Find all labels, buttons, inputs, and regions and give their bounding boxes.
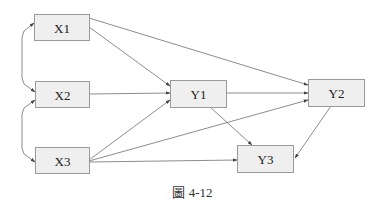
path-arrow-x3-y3 [89,160,237,162]
node-x2: X2 [36,82,90,108]
node-x1: X1 [35,15,90,41]
node-label: Y2 [329,86,345,101]
path-arrow-x1-y1 [89,27,170,86]
node-label: Y1 [191,87,207,102]
node-y2: Y2 [309,80,365,107]
path-diagram: X1X2X3Y1Y2Y3 [0,0,385,209]
path-arrow-x1-y2 [89,18,308,85]
node-y1: Y1 [171,81,227,108]
path-arrow-x2-y1 [89,93,170,94]
correlation-arrow-x1-x2 [22,23,35,92]
node-x3: X3 [36,148,90,174]
node-label: X3 [55,154,71,169]
path-arrow-x3-y1 [89,100,170,160]
path-arrow-y1-y3 [210,107,252,145]
node-y3: Y3 [238,146,294,173]
correlation-arrow-x2-x3 [22,100,35,162]
node-label: Y3 [258,152,274,167]
node-label: X2 [55,88,71,103]
path-arrow-y2-y3 [295,106,331,158]
figure-caption: 圖 4-12 [0,182,385,201]
node-label: X1 [54,21,70,36]
nodes-layer: X1X2X3Y1Y2Y3 [35,15,365,174]
